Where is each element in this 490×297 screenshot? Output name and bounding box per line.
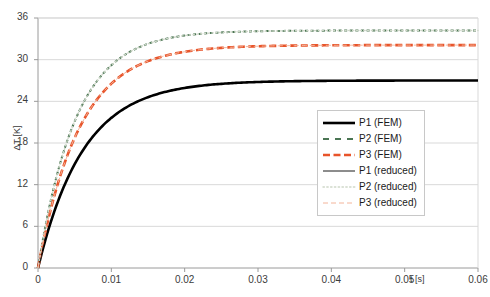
- legend-label: P2 (reduced): [359, 181, 417, 193]
- chart-figure: 061218243036 00.010.020.030.040.050.06 Δ…: [0, 0, 490, 297]
- x-tick-label: 0: [18, 274, 58, 285]
- legend-item[interactable]: P2 (reduced): [322, 179, 419, 195]
- legend: P1 (FEM)P2 (FEM)P3 (FEM)P1 (reduced)P2 (…: [317, 110, 425, 216]
- y-tick-label: 30: [6, 53, 28, 64]
- y-tick-label: 36: [6, 11, 28, 22]
- legend-line-sample: [322, 165, 356, 177]
- legend-item[interactable]: P2 (FEM): [322, 131, 419, 147]
- legend-label: P1 (FEM): [359, 117, 402, 129]
- y-axis-label: ΔT [K]: [12, 108, 22, 168]
- legend-line-sample: [322, 117, 356, 129]
- y-tick-label: 24: [6, 94, 28, 105]
- y-tick-label: 6: [6, 219, 28, 230]
- y-tick-label: 12: [6, 178, 28, 189]
- legend-label: P3 (reduced): [359, 197, 417, 209]
- x-tick-label: 0.01: [91, 274, 131, 285]
- legend-line-sample: [322, 133, 356, 145]
- x-tick-label: 0.06: [458, 274, 490, 285]
- legend-label: P1 (reduced): [359, 165, 417, 177]
- legend-item[interactable]: P1 (reduced): [322, 163, 419, 179]
- legend-line-sample: [322, 197, 356, 209]
- legend-line-sample: [322, 149, 356, 161]
- x-axis-label: t [s]: [410, 274, 425, 284]
- legend-item[interactable]: P3 (FEM): [322, 147, 419, 163]
- legend-item[interactable]: P1 (FEM): [322, 115, 419, 131]
- x-tick-label: 0.02: [165, 274, 205, 285]
- legend-label: P2 (FEM): [359, 133, 402, 145]
- legend-label: P3 (FEM): [359, 149, 402, 161]
- x-tick-label: 0.04: [311, 274, 351, 285]
- legend-line-sample: [322, 181, 356, 193]
- x-tick-label: 0.03: [238, 274, 278, 285]
- y-tick-label: 0: [6, 261, 28, 272]
- legend-item[interactable]: P3 (reduced): [322, 195, 419, 211]
